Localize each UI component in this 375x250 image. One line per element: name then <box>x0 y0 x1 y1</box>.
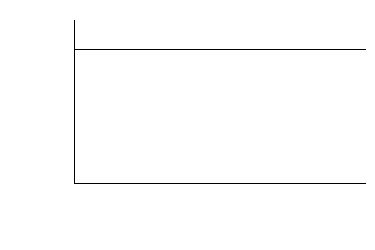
figure-a <box>0 0 375 250</box>
x-axis-line <box>74 183 366 184</box>
zero-baseline <box>74 49 366 50</box>
y-axis-line <box>74 20 75 184</box>
plot-area <box>74 20 366 184</box>
